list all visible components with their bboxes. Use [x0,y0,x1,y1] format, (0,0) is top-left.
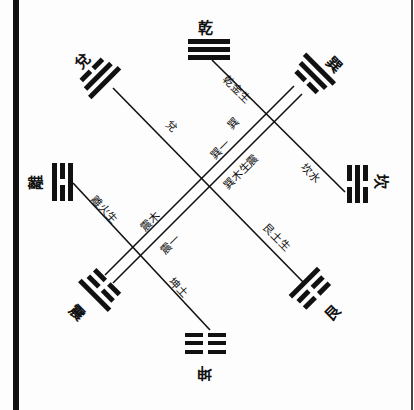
annotation-li-kun-lower: 坤土 [166,274,191,300]
annotation-xun-zhen-upper-b: 巽木生震 [220,151,261,192]
trigram-label-dui: 兌 [71,49,94,72]
annotation-xun-zhen-upper-a: 巽 [225,115,242,132]
trigram-li [52,163,73,201]
line-dui-gen [113,88,303,282]
trigram-label-gen: 艮 [321,301,345,325]
annotation-qian-kan-upper: 乾金生 [220,72,253,105]
line-xun-zhen-a [105,86,294,275]
annotation-dui-gen-lower: 艮土生 [260,220,293,253]
annotation-li-kun-upper: 離火生 [88,192,121,226]
annotation-xun-zhen-lower-b: 震一 [158,232,183,257]
trigram-kun [185,333,226,354]
trigram-qian [188,39,230,60]
trigram-label-zhen: 震 [65,301,89,325]
annotation-dui-gen-upper: 兌 [163,118,180,135]
bagua-diagram: 乾 坤 離 坎 兌 [0,0,414,410]
diagram-canvas: 乾 坤 離 坎 兌 [0,0,414,410]
trigram-kan [347,165,368,203]
trigram-label-qian: 乾 [198,19,213,37]
annotation-qian-kan-lower: 坎水 [298,161,323,186]
trigram-zhen [78,266,124,312]
trigram-label-li: 離 [27,175,45,190]
annotation-xun-zhen-lower-a: 震木 [138,209,163,234]
line-xun-zhen-b [113,94,302,283]
trigram-label-kun: 坤 [197,364,212,382]
trigram-label-kan: 坎 [372,174,390,189]
annotation-xun-zhen-mid: 巽一 [208,137,233,162]
